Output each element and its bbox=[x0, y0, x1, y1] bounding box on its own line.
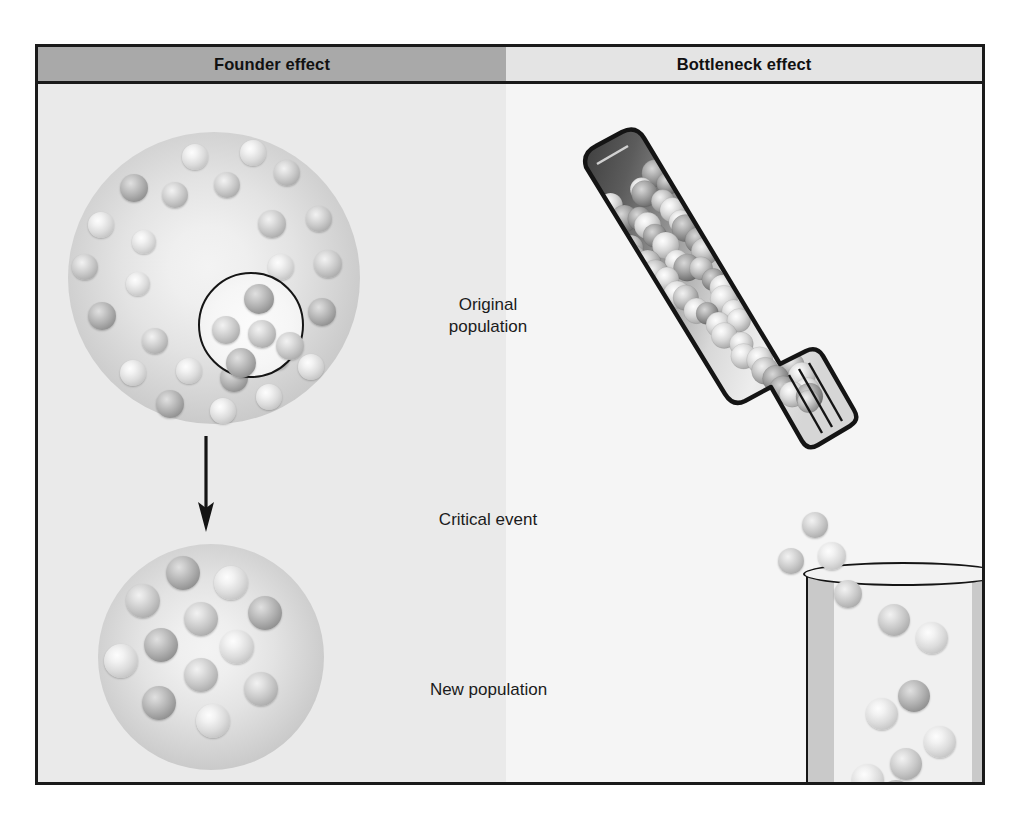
figure-body: Original population Critical event New p… bbox=[38, 84, 982, 782]
header-band: Founder effect Bottleneck effect bbox=[38, 47, 982, 84]
allele-sphere bbox=[244, 672, 278, 706]
allele-sphere bbox=[120, 360, 146, 386]
allele-sphere bbox=[72, 254, 98, 280]
falling-sphere bbox=[818, 542, 846, 570]
allele-sphere bbox=[144, 628, 178, 662]
allele-sphere bbox=[182, 144, 208, 170]
falling-sphere bbox=[834, 580, 862, 608]
falling-sphere bbox=[778, 548, 804, 574]
allele-sphere bbox=[184, 602, 218, 636]
figure-page: Founder effect Bottleneck effect bbox=[0, 0, 1019, 817]
allele-sphere bbox=[196, 704, 230, 738]
allele-sphere bbox=[104, 644, 138, 678]
allele-sphere bbox=[88, 212, 114, 238]
allele-sphere bbox=[306, 206, 332, 232]
falling-spheres bbox=[506, 84, 982, 782]
allele-sphere bbox=[142, 328, 168, 354]
founder-sphere bbox=[248, 320, 276, 348]
allele-sphere bbox=[184, 658, 218, 692]
allele-sphere bbox=[162, 182, 188, 208]
founder-arrow-icon bbox=[196, 436, 216, 532]
new-population-disc bbox=[98, 544, 324, 770]
allele-sphere bbox=[240, 140, 266, 166]
panel-founder-effect bbox=[38, 84, 506, 782]
founder-sphere bbox=[212, 316, 240, 344]
allele-sphere bbox=[132, 230, 156, 254]
allele-sphere bbox=[274, 160, 300, 186]
allele-sphere bbox=[210, 398, 236, 424]
allele-sphere bbox=[314, 250, 342, 278]
allele-sphere bbox=[126, 272, 150, 296]
allele-sphere bbox=[166, 556, 200, 590]
allele-sphere bbox=[248, 596, 282, 630]
panel-bottleneck-effect bbox=[506, 84, 982, 782]
allele-sphere bbox=[258, 210, 286, 238]
original-population-disc bbox=[68, 132, 360, 424]
allele-sphere bbox=[88, 302, 116, 330]
allele-sphere bbox=[176, 358, 202, 384]
founder-sample-circle bbox=[198, 272, 304, 378]
allele-sphere bbox=[156, 390, 184, 418]
allele-sphere bbox=[308, 298, 336, 326]
header-founder-effect: Founder effect bbox=[38, 47, 506, 81]
allele-sphere bbox=[120, 174, 148, 202]
allele-sphere bbox=[142, 686, 176, 720]
allele-sphere bbox=[126, 584, 160, 618]
founder-sphere bbox=[276, 332, 304, 360]
founder-sphere bbox=[226, 348, 256, 378]
founder-sphere bbox=[244, 284, 274, 314]
header-bottleneck-effect: Bottleneck effect bbox=[506, 47, 982, 81]
allele-sphere bbox=[214, 566, 248, 600]
falling-sphere bbox=[802, 512, 828, 538]
allele-sphere bbox=[256, 384, 282, 410]
allele-sphere bbox=[298, 354, 324, 380]
allele-sphere bbox=[220, 630, 254, 664]
figure-frame: Founder effect Bottleneck effect bbox=[35, 44, 985, 785]
allele-sphere bbox=[214, 172, 240, 198]
